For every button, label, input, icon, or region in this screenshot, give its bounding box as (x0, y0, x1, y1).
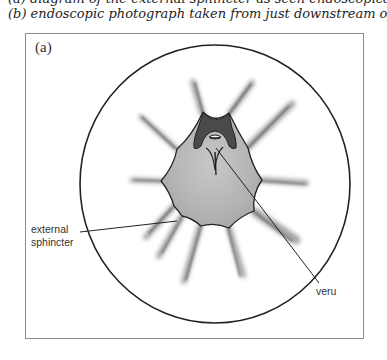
label-external-sphincter-line1: external (31, 223, 74, 236)
leader-line-external-sphincter (80, 221, 177, 232)
panel-label: (a) (35, 39, 52, 56)
label-external-sphincter-line2: sphincter (31, 236, 74, 249)
label-external-sphincter: external sphincter (31, 223, 74, 249)
endoscopic-diagram (0, 0, 387, 360)
label-veru: veru (316, 285, 336, 298)
